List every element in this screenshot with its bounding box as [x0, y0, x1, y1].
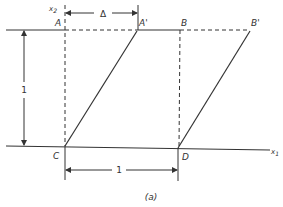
height-label: 1 — [21, 85, 27, 95]
point-label-c: C — [53, 151, 60, 161]
x1-axis-subscript: 1 — [275, 150, 279, 157]
x2-axis-label: x2 — [48, 5, 57, 14]
dashed-edge-b-d — [179, 30, 180, 148]
point-label-a-prime: A' — [138, 18, 148, 28]
x1-axis-label: x1 — [270, 148, 279, 157]
edge-d-bprime — [178, 31, 250, 148]
point-label-a: A — [54, 18, 61, 28]
point-label-b: B — [181, 18, 187, 28]
figure-caption: (a) — [145, 192, 158, 202]
width-label: 1 — [116, 165, 122, 175]
delta-label: Δ — [100, 9, 107, 19]
x2-axis-subscript: 2 — [53, 7, 57, 14]
point-label-b-prime: B' — [251, 18, 260, 28]
edge-c-aprime — [65, 31, 137, 146]
x1-axis — [6, 146, 270, 150]
shear-deformation-diagram: Δ 1 1 A A' B B' C D x2 x1 (a) — [0, 0, 283, 207]
point-label-d: D — [182, 152, 189, 162]
